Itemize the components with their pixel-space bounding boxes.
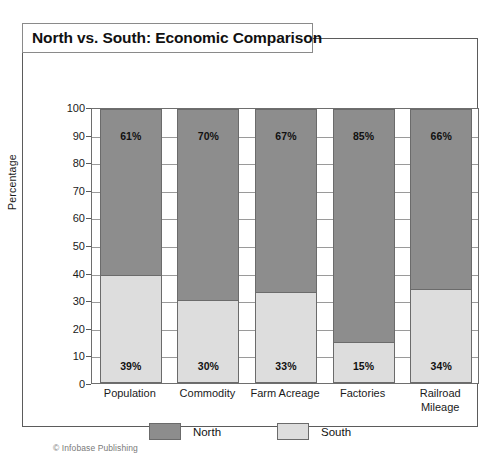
bar-segment-north[interactable]: 61% xyxy=(100,109,162,277)
bar-value-label: 70% xyxy=(198,130,219,142)
plot-area: 61%39%70%30%67%33%85%15%66%34% xyxy=(91,108,479,384)
bar-column[interactable]: 70%30% xyxy=(177,109,239,383)
y-axis-tick-label: 100 xyxy=(55,103,85,114)
bar-column[interactable]: 66%34% xyxy=(410,109,472,383)
legend-swatch xyxy=(149,423,181,440)
y-axis-tick-label: 10 xyxy=(55,351,85,362)
bar-segment-north[interactable]: 85% xyxy=(333,109,395,344)
plot-wrapper: 61%39%70%30%67%33%85%15%66%34% xyxy=(91,108,479,384)
bar-column[interactable]: 85%15% xyxy=(333,109,395,383)
chart-title-plate: North vs. South: Economic Comparison xyxy=(22,23,313,53)
y-axis-tick-label: 30 xyxy=(55,296,85,307)
y-axis-tick-label: 60 xyxy=(55,213,85,224)
bar-segment-north[interactable]: 66% xyxy=(410,109,472,291)
bar-value-label: 15% xyxy=(353,360,374,372)
x-axis-tick-labels: PopulationCommodityFarm AcreageFactories… xyxy=(91,387,479,421)
x-axis-tick-label: Commodity xyxy=(169,387,247,401)
bar-segment-south[interactable]: 34% xyxy=(410,289,472,383)
bar-value-label: 66% xyxy=(431,130,452,142)
y-axis-tick-label: 50 xyxy=(55,241,85,252)
y-axis-tick-label: 40 xyxy=(55,268,85,279)
legend-label: North xyxy=(193,426,221,438)
x-axis-tick-label: Railroad Mileage xyxy=(401,387,479,414)
y-axis-tick-label: 20 xyxy=(55,323,85,334)
credit-text: © Infobase Publishing xyxy=(53,443,138,453)
x-axis-tick-label: Farm Acreage xyxy=(246,387,324,401)
y-axis-tick-labels: 0102030405060708090100 xyxy=(53,108,85,384)
bar-segment-south[interactable]: 15% xyxy=(333,342,395,383)
bar-column[interactable]: 67%33% xyxy=(255,109,317,383)
bar-value-label: 61% xyxy=(120,130,141,142)
bar-column[interactable]: 61%39% xyxy=(100,109,162,383)
bar-value-label: 34% xyxy=(431,360,452,372)
bar-value-label: 30% xyxy=(198,360,219,372)
bar-value-label: 39% xyxy=(120,360,141,372)
y-axis-tick-label: 90 xyxy=(55,130,85,141)
bar-segment-north[interactable]: 70% xyxy=(177,109,239,302)
y-axis-tick-label: 80 xyxy=(55,158,85,169)
bar-segment-south[interactable]: 30% xyxy=(177,300,239,383)
figure-frame: Percentage 0102030405060708090100 61%39%… xyxy=(22,38,478,427)
legend-swatch xyxy=(277,423,309,440)
y-axis-tick-mark xyxy=(86,384,91,385)
legend-item[interactable]: South xyxy=(277,423,351,440)
chart-legend: NorthSouth xyxy=(23,423,477,440)
y-axis-tick-label: 70 xyxy=(55,185,85,196)
x-axis-tick-label: Factories xyxy=(324,387,402,401)
bar-value-label: 85% xyxy=(353,130,374,142)
y-axis-title: Percentage xyxy=(6,154,18,210)
legend-label: South xyxy=(321,426,351,438)
page-title: North vs. South: Economic Comparison xyxy=(32,29,322,47)
y-axis-tick-label: 0 xyxy=(55,379,85,390)
bar-value-label: 67% xyxy=(275,130,296,142)
bar-segment-south[interactable]: 33% xyxy=(255,292,317,383)
x-axis-tick-label: Population xyxy=(91,387,169,401)
legend-item[interactable]: North xyxy=(149,423,221,440)
bar-segment-south[interactable]: 39% xyxy=(100,275,162,383)
bar-value-label: 33% xyxy=(275,360,296,372)
bar-segment-north[interactable]: 67% xyxy=(255,109,317,294)
